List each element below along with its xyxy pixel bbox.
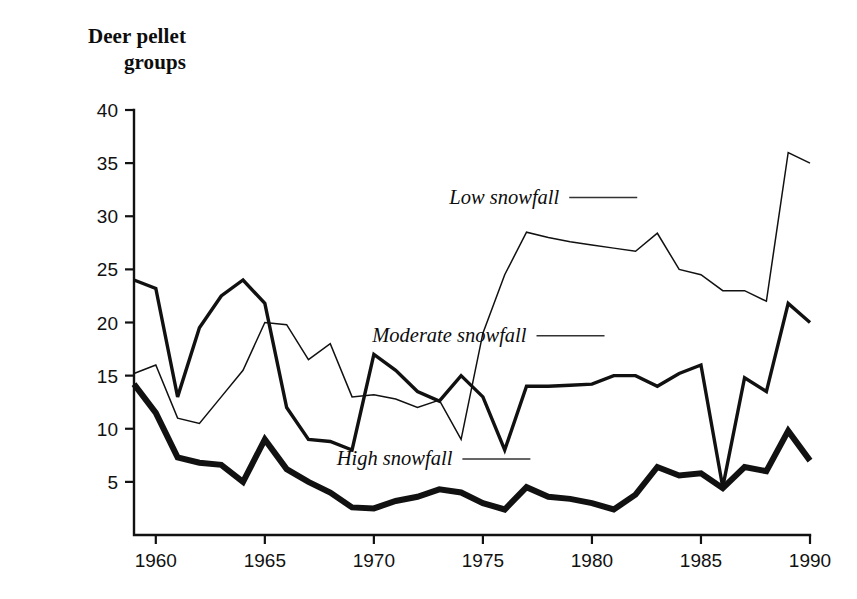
y-tick-label-5: 5 (107, 472, 118, 493)
y-tick-labels: 510152025303540 (97, 100, 118, 493)
y-tick-label-35: 35 (97, 153, 118, 174)
y-tick-label-25: 25 (97, 259, 118, 280)
annotation-moderate-snowfall: Moderate snowfall (371, 324, 527, 347)
plot-area: 1960196519701975198019851990 51015202530… (0, 0, 857, 599)
y-tick-label-15: 15 (97, 366, 118, 387)
axes (134, 110, 810, 535)
y-tick-label-10: 10 (97, 419, 118, 440)
y-tick-label-40: 40 (97, 100, 118, 121)
x-tick-label-1990: 1990 (789, 550, 831, 571)
annotation-low-snowfall: Low snowfall (448, 186, 559, 209)
x-tick-label-1975: 1975 (462, 550, 504, 571)
x-tick-label-1965: 1965 (244, 550, 286, 571)
x-tick-label-1980: 1980 (571, 550, 613, 571)
y-tick-label-20: 20 (97, 313, 118, 334)
axis-spines (134, 110, 810, 535)
x-tick-label-1985: 1985 (680, 550, 722, 571)
annotation-high-snowfall: High snowfall (336, 447, 453, 470)
deer-pellet-groups-chart: Deer pellet groups 196019651970197519801… (0, 0, 857, 599)
x-tick-labels: 1960196519701975198019851990 (135, 550, 831, 571)
x-tick-label-1970: 1970 (353, 550, 395, 571)
x-tick-label-1960: 1960 (135, 550, 177, 571)
y-tick-label-30: 30 (97, 206, 118, 227)
series-annotations: Low snowfallModerate snowfallHigh snowfa… (336, 186, 637, 470)
